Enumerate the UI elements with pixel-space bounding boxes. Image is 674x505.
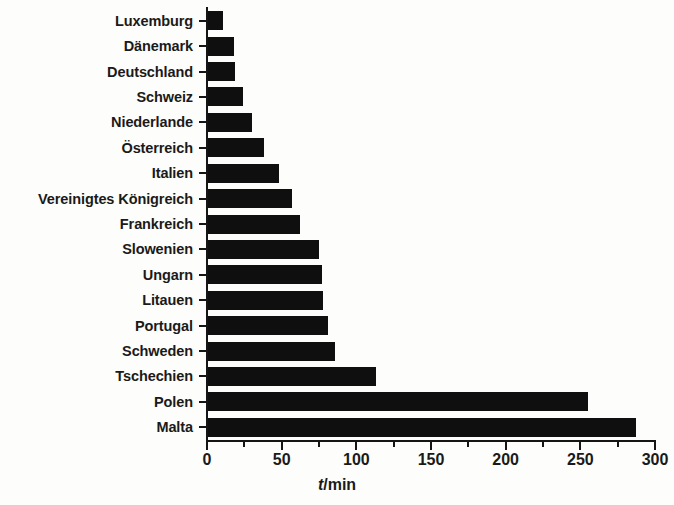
x-axis-tick-label: 100 [343, 452, 370, 468]
y-axis-tick-mark [199, 299, 206, 301]
y-axis-tick-mark [199, 71, 206, 73]
bar-row [207, 342, 655, 361]
y-axis-tick-label: Slowenien [0, 242, 193, 257]
bar-row [207, 87, 655, 106]
bar [207, 37, 234, 56]
y-axis-tick-label: Dänemark [0, 39, 193, 54]
y-axis-tick-mark [199, 350, 206, 352]
bar [207, 164, 279, 183]
x-axis-minor-tick-mark [393, 442, 395, 447]
bar-row [207, 37, 655, 56]
bar [207, 418, 636, 437]
y-axis-tick-mark [199, 96, 206, 98]
y-axis-tick-mark [199, 325, 206, 327]
y-axis-tick-mark [199, 198, 206, 200]
x-axis-tick-mark [355, 442, 357, 450]
bar [207, 342, 335, 361]
plot-area [207, 8, 655, 440]
y-axis-tick-label: Luxemburg [0, 14, 193, 29]
y-axis-tick-label: Vereinigtes Königreich [0, 192, 193, 207]
bar [207, 392, 588, 411]
y-axis-category-labels: LuxemburgDänemarkDeutschlandSchweizNiede… [0, 8, 193, 440]
y-axis-tick-mark [199, 426, 206, 428]
y-axis-tick-mark [199, 248, 206, 250]
y-axis-tick-mark [199, 223, 206, 225]
x-axis-tick-label: 150 [418, 452, 445, 468]
x-axis-minor-tick-mark [318, 442, 320, 447]
y-axis-line [206, 7, 208, 442]
bar-row [207, 138, 655, 157]
x-axis-minor-tick-mark [617, 442, 619, 447]
x-axis-tick-mark [579, 442, 581, 450]
x-axis-tick-mark [654, 442, 656, 450]
y-axis-tick-label: Malta [0, 420, 193, 435]
y-axis-tick-mark [199, 20, 206, 22]
bar [207, 62, 235, 81]
bar-row [207, 367, 655, 386]
x-axis-tick-mark [505, 442, 507, 450]
bar-row [207, 418, 655, 437]
y-axis-tick-label: Deutschland [0, 65, 193, 80]
x-axis-tick-label: 0 [203, 452, 212, 468]
y-axis-tick-label: Italien [0, 166, 193, 181]
bar [207, 265, 322, 284]
bar [207, 11, 223, 30]
bar-row [207, 189, 655, 208]
y-axis-tick-mark [199, 375, 206, 377]
bar [207, 316, 328, 335]
bar-row [207, 215, 655, 234]
x-axis-tick-label: 300 [642, 452, 669, 468]
y-axis-tick-mark [199, 121, 206, 123]
x-axis-tick-label: 200 [492, 452, 519, 468]
x-axis-minor-tick-mark [243, 442, 245, 447]
y-axis-tick-mark [199, 401, 206, 403]
x-axis-tick-mark [281, 442, 283, 450]
bar [207, 367, 376, 386]
bar-row [207, 240, 655, 259]
x-axis-title: t/min [0, 476, 674, 494]
bar [207, 87, 243, 106]
y-axis-tick-label: Litauen [0, 293, 193, 308]
y-axis-tick-label: Schweiz [0, 90, 193, 105]
y-axis-tick-label: Ungarn [0, 268, 193, 283]
x-axis-minor-tick-mark [542, 442, 544, 447]
bar-row [207, 113, 655, 132]
y-axis-tick-mark [199, 147, 206, 149]
x-axis-minor-tick-mark [467, 442, 469, 447]
x-axis-tick-mark [430, 442, 432, 450]
x-axis-tick-mark [206, 442, 208, 450]
y-axis-tick-mark [199, 274, 206, 276]
y-axis-tick-label: Niederlande [0, 115, 193, 130]
bar-row [207, 316, 655, 335]
y-axis-tick-label: Polen [0, 395, 193, 410]
y-axis-tick-label: Österreich [0, 141, 193, 156]
bar [207, 113, 252, 132]
bar [207, 240, 319, 259]
y-axis-tick-label: Frankreich [0, 217, 193, 232]
bar-row [207, 291, 655, 310]
y-axis-tick-mark [199, 45, 206, 47]
bar-row [207, 164, 655, 183]
y-axis-tick-label: Tschechien [0, 369, 193, 384]
x-axis-title-unit: /min [323, 476, 356, 493]
y-axis-tick-label: Portugal [0, 319, 193, 334]
bar-row [207, 62, 655, 81]
x-axis-tick-label: 50 [273, 452, 291, 468]
bar [207, 291, 323, 310]
bar [207, 215, 300, 234]
bar-chart-figure: LuxemburgDänemarkDeutschlandSchweizNiede… [0, 0, 674, 505]
bar-row [207, 265, 655, 284]
bar-row [207, 392, 655, 411]
y-axis-tick-label: Schweden [0, 344, 193, 359]
y-axis-tick-mark [199, 172, 206, 174]
bar-row [207, 11, 655, 30]
bar [207, 138, 264, 157]
bar [207, 189, 292, 208]
x-axis-tick-label: 250 [567, 452, 594, 468]
